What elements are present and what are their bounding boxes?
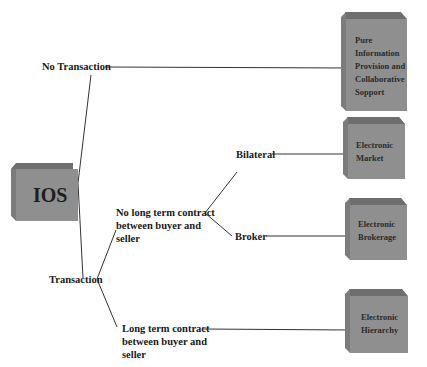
- ios-decision-tree: IOS No Transaction Transaction No long t…: [0, 0, 427, 367]
- long-term-contract-label: Long term contract between buyer and sel…: [122, 322, 209, 361]
- no-transaction-label: No Transaction: [42, 60, 111, 73]
- box-top-face: [349, 198, 407, 205]
- broker-label: Broker: [235, 230, 267, 243]
- box-top-face: [349, 289, 408, 296]
- box-top-face: [347, 117, 405, 124]
- pure-information-box: Pure Information Provision and Collabora…: [341, 12, 407, 111]
- bilateral-label: Bilateral: [236, 148, 275, 161]
- ios-label: IOS: [33, 185, 67, 205]
- no-long-term-contract-label: No long term contract between buyer and …: [116, 206, 215, 245]
- electronic-market-box: Electronic Market: [343, 117, 405, 179]
- electronic-brokerage-box: Electronic Brokerage: [345, 198, 407, 260]
- box-top-face: [345, 12, 407, 19]
- transaction-label: Transaction: [49, 273, 102, 286]
- ios-box: IOS: [11, 163, 78, 221]
- electronic-hierarchy-text: Electronic Hierarchy: [361, 311, 398, 337]
- electronic-market-text: Electronic Market: [356, 139, 393, 165]
- electronic-hierarchy-box: Electronic Hierarchy: [345, 289, 408, 353]
- electronic-brokerage-text: Electronic Brokerage: [358, 218, 396, 244]
- pure-information-text: Pure Information Provision and Collabora…: [355, 34, 405, 99]
